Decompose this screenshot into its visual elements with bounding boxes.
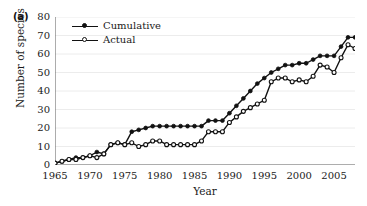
- data-point: [88, 154, 92, 158]
- legend-label: Cumulative: [103, 19, 161, 33]
- data-point: [262, 98, 266, 102]
- data-point: [137, 145, 141, 149]
- data-point: [228, 111, 232, 115]
- data-point: [55, 161, 57, 165]
- data-point: [325, 54, 329, 58]
- data-point: [297, 78, 301, 82]
- data-point: [102, 152, 106, 156]
- data-point: [137, 128, 141, 132]
- y-tick-label: 70: [28, 31, 50, 41]
- data-point: [151, 139, 155, 143]
- data-point: [165, 143, 169, 147]
- data-point: [269, 80, 273, 84]
- data-point: [290, 63, 294, 67]
- data-point: [158, 139, 162, 143]
- data-point: [276, 67, 280, 71]
- data-point: [144, 126, 148, 130]
- data-point: [276, 76, 280, 80]
- open-circle-icon: [72, 35, 98, 45]
- data-point: [235, 104, 239, 108]
- data-point: [297, 61, 301, 65]
- y-tick-label: 50: [28, 68, 50, 78]
- data-point: [179, 124, 183, 128]
- data-point: [346, 43, 350, 47]
- data-point: [269, 71, 273, 75]
- data-point: [172, 124, 176, 128]
- filled-circle-icon: [72, 21, 98, 31]
- y-tick-label: 10: [28, 142, 50, 152]
- data-point: [130, 141, 134, 145]
- data-point: [74, 157, 78, 161]
- data-point: [200, 139, 204, 143]
- chart-legend: CumulativeActual: [72, 19, 161, 47]
- data-point: [241, 109, 245, 113]
- data-point: [290, 80, 294, 84]
- data-point: [206, 130, 210, 134]
- data-point: [220, 130, 224, 134]
- series-line: [55, 37, 355, 163]
- data-point: [248, 89, 252, 93]
- data-point: [353, 35, 355, 39]
- data-point: [213, 130, 217, 134]
- data-point: [304, 80, 308, 84]
- data-point: [186, 143, 190, 147]
- data-point: [234, 115, 238, 119]
- data-point: [172, 143, 176, 147]
- data-point: [123, 143, 127, 147]
- y-tick-label: 30: [28, 105, 50, 115]
- data-point: [283, 63, 287, 67]
- data-point: [130, 130, 134, 134]
- data-point: [193, 124, 197, 128]
- series-line: [55, 45, 355, 163]
- data-point: [346, 35, 350, 39]
- data-point: [151, 124, 155, 128]
- data-point: [311, 74, 315, 78]
- data-point: [262, 76, 266, 80]
- data-point: [339, 45, 343, 49]
- data-point: [353, 46, 355, 50]
- data-point: [193, 143, 197, 147]
- data-point: [95, 150, 99, 154]
- y-tick-label: 60: [28, 49, 50, 59]
- data-point: [165, 124, 169, 128]
- data-point: [241, 97, 245, 101]
- data-point: [116, 141, 120, 145]
- data-point: [255, 102, 259, 106]
- chart-figure: (a) Number of species Year 8070605040302…: [0, 0, 367, 206]
- y-tick-label: 80: [28, 12, 50, 22]
- data-point: [318, 63, 322, 67]
- series-cumulative: [55, 35, 355, 165]
- legend-label: Actual: [103, 33, 135, 47]
- data-point: [332, 71, 336, 75]
- y-axis-title: Number of species: [14, 0, 26, 118]
- data-point: [311, 58, 315, 62]
- data-point: [158, 124, 162, 128]
- data-point: [283, 76, 287, 80]
- y-tick-label: 0: [28, 160, 50, 170]
- data-point: [67, 157, 71, 161]
- data-point: [325, 65, 329, 69]
- data-point: [221, 119, 225, 123]
- data-point: [144, 143, 148, 147]
- data-point: [179, 143, 183, 147]
- data-point: [207, 119, 211, 123]
- data-point: [318, 54, 322, 58]
- data-point: [248, 106, 252, 110]
- data-point: [255, 82, 259, 86]
- legend-item-actual: Actual: [72, 33, 161, 47]
- data-point: [332, 54, 336, 58]
- data-point: [339, 56, 343, 60]
- data-point: [200, 124, 204, 128]
- data-point: [95, 156, 99, 160]
- data-point: [81, 156, 85, 160]
- x-tick-label: 2005: [314, 171, 354, 181]
- data-point: [109, 143, 113, 147]
- data-point: [186, 124, 190, 128]
- data-point: [304, 61, 308, 65]
- data-point: [60, 159, 64, 163]
- x-axis-title: Year: [55, 185, 355, 197]
- legend-item-cumulative: Cumulative: [72, 19, 161, 33]
- data-point: [227, 120, 231, 124]
- y-tick-label: 40: [28, 86, 50, 96]
- y-tick-label: 20: [28, 123, 50, 133]
